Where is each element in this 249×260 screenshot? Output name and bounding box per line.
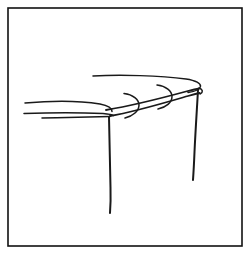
image-canvas: Hand-drawn line sketch of a table in per… (0, 0, 249, 260)
border-frame (8, 8, 242, 246)
line-drawing: Far edge of tabletop curving rightUpper … (0, 0, 249, 260)
